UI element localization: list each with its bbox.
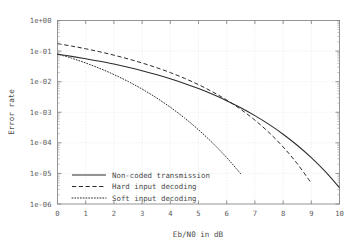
y-axis-title: Error rate (7, 89, 16, 135)
y-tick-label: 1e-04 (30, 138, 52, 147)
x-tick-label: 2 (112, 209, 116, 218)
y-tick-label: 1e+00 (30, 16, 52, 25)
x-tick-label: 9 (309, 209, 313, 218)
legend-label: Soft input decoding (112, 194, 197, 203)
ber-chart-figure: 1e+001e-011e-021e-031e-041e-051e-06 0123… (0, 0, 356, 244)
legend-label: Hard input decoding (112, 182, 197, 191)
x-tick-label: 4 (168, 209, 172, 218)
y-tick-label: 1e-01 (30, 47, 52, 56)
y-tick-label: 1e-06 (30, 200, 52, 209)
x-tick-label: 1 (84, 209, 88, 218)
x-tick-label: 5 (196, 209, 200, 218)
x-tick-label: 7 (253, 209, 257, 218)
chart-background (0, 0, 356, 244)
x-tick-label: 3 (140, 209, 144, 218)
x-tick-label: 8 (281, 209, 285, 218)
chart-canvas: 1e+001e-011e-021e-031e-041e-051e-06 0123… (0, 0, 356, 244)
x-axis-title: Eb/N0 in dB (173, 230, 224, 239)
x-tick-label: 10 (335, 209, 344, 218)
y-tick-label: 1e-05 (30, 169, 52, 178)
y-tick-label: 1e-03 (30, 108, 52, 117)
y-tick-label: 1e-02 (30, 77, 52, 86)
x-tick-label: 6 (225, 209, 229, 218)
legend-label: Non-coded transmission (112, 171, 210, 180)
x-tick-label: 0 (55, 209, 59, 218)
